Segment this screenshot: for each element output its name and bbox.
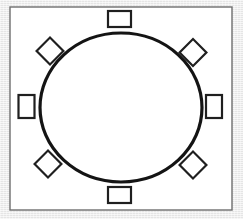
- seat-east: [206, 95, 222, 118]
- diagram-canvas: [0, 0, 243, 219]
- round-table-seating-diagram: [0, 0, 243, 219]
- seat-north: [108, 11, 131, 27]
- seat-west: [19, 95, 35, 118]
- round-table: [40, 33, 202, 182]
- seat-south: [108, 187, 131, 203]
